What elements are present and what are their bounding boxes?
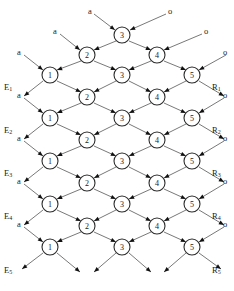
arrowhead-icon: [164, 174, 170, 178]
lattice-node[interactable]: 4: [149, 218, 165, 234]
node-label: 3: [120, 157, 124, 166]
input-label-o: o: [204, 27, 208, 36]
node-label: 1: [48, 200, 52, 209]
arrowhead-icon: [57, 195, 63, 199]
edge: [94, 189, 116, 199]
edge: [57, 189, 81, 199]
edge: [94, 232, 116, 242]
input-label-o: o: [223, 177, 227, 186]
lattice-node[interactable]: 3: [114, 239, 130, 255]
lattice-node[interactable]: 2: [79, 218, 95, 234]
input-label-o: o: [223, 134, 227, 143]
lattice-node[interactable]: 3: [114, 67, 130, 83]
lattice-node[interactable]: 5: [184, 196, 200, 212]
node-label: 5: [190, 200, 194, 209]
lattice-node[interactable]: 1: [42, 153, 58, 169]
node-label: 3: [120, 71, 124, 80]
lattice-node[interactable]: 2: [79, 175, 95, 191]
arrowhead-icon: [199, 195, 205, 199]
arrowhead-icon: [180, 109, 186, 113]
arrowhead-icon: [145, 46, 151, 50]
node-label: 4: [155, 136, 159, 145]
arrowhead-icon: [130, 26, 136, 30]
lattice-node[interactable]: 4: [149, 175, 165, 191]
node-label: 5: [190, 114, 194, 123]
lattice-node[interactable]: 3: [114, 196, 130, 212]
lattice-node[interactable]: 5: [184, 67, 200, 83]
edge: [129, 81, 151, 92]
lattice-node[interactable]: 3: [114, 153, 130, 169]
lattice-node[interactable]: 1: [42, 110, 58, 126]
edge: [199, 184, 224, 199]
node-label: 5: [190, 71, 194, 80]
output-label-e: E3: [4, 169, 12, 178]
node-label: 4: [155, 222, 159, 231]
node-label: 3: [120, 200, 124, 209]
output-label-e-index: 3: [9, 172, 12, 178]
output-label-r-index: 5: [218, 269, 221, 275]
lattice-node[interactable]: 5: [184, 110, 200, 126]
node-label: 2: [85, 222, 89, 231]
edge: [199, 98, 224, 113]
arrowhead-icon: [22, 264, 27, 269]
arrowhead-icon: [94, 174, 100, 178]
edge: [94, 61, 116, 70]
lattice-node[interactable]: 5: [184, 153, 200, 169]
edge: [94, 14, 115, 30]
arrowhead-icon: [38, 151, 43, 156]
edge: [199, 141, 224, 156]
arrowhead-icon: [164, 46, 170, 50]
lattice-node[interactable]: 3: [114, 27, 130, 43]
edge: [24, 81, 43, 96]
edge: [129, 61, 151, 70]
output-label-r-index: 1: [218, 86, 221, 92]
arrowhead-icon: [38, 194, 43, 199]
lattice-node[interactable]: 2: [79, 89, 95, 105]
arrowhead-icon: [24, 134, 29, 139]
diagram-canvas: 32413524135241352413524135 aaaaaaaoooooo…: [0, 0, 234, 291]
lattice-node[interactable]: 5: [184, 239, 200, 255]
edge: [94, 253, 116, 272]
edge: [164, 253, 186, 272]
edge: [164, 124, 186, 135]
lattice-node[interactable]: 3: [114, 110, 130, 126]
arrowhead-icon: [24, 220, 29, 225]
edge: [94, 103, 116, 113]
edge: [129, 232, 151, 242]
arrowhead-icon: [180, 66, 186, 70]
edge: [94, 210, 116, 221]
lattice-node[interactable]: 4: [149, 89, 165, 105]
arrowhead-icon: [129, 152, 135, 156]
node-label: 2: [85, 136, 89, 145]
arrowhead-icon: [110, 238, 116, 242]
lattice-node[interactable]: 2: [79, 47, 95, 63]
lattice-node[interactable]: 1: [42, 239, 58, 255]
arrowhead-icon: [110, 66, 116, 70]
arrowhead-icon: [129, 66, 135, 70]
edge: [24, 227, 43, 242]
node-label: 1: [48, 114, 52, 123]
arrowhead-icon: [145, 131, 151, 135]
lattice-node[interactable]: 2: [79, 132, 95, 148]
output-label-e: E5: [4, 266, 12, 275]
arrowhead-icon: [164, 88, 170, 92]
edge: [94, 124, 116, 135]
arrowhead-icon: [145, 88, 151, 92]
arrowhead-icon: [94, 131, 100, 135]
lattice-node[interactable]: 4: [149, 47, 165, 63]
arrowhead-icon: [180, 152, 186, 156]
node-label: 2: [85, 51, 89, 60]
edge: [24, 98, 43, 113]
lattice-node[interactable]: 4: [149, 132, 165, 148]
edge: [57, 167, 81, 178]
edge: [94, 146, 116, 156]
edge: [22, 253, 43, 269]
edge: [129, 124, 151, 135]
arrowhead-icon: [57, 66, 63, 70]
lattice-node[interactable]: 1: [42, 196, 58, 212]
input-label-o: o: [223, 48, 227, 57]
arrowhead-icon: [75, 174, 81, 178]
lattice-node[interactable]: 1: [42, 67, 58, 83]
edge: [164, 81, 186, 92]
arrowhead-icon: [110, 25, 115, 30]
